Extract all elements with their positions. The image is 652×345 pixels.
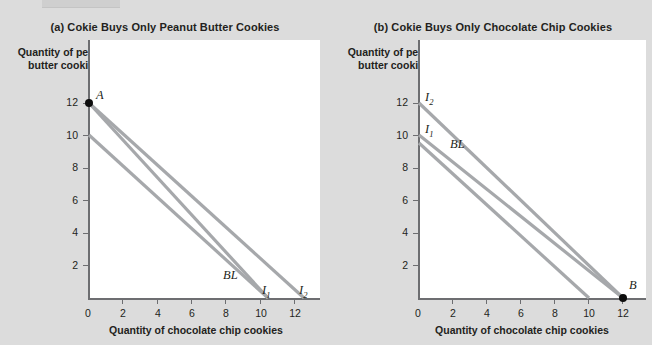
- panel-a-line-bl: [89, 103, 268, 298]
- panel-a-label-i2-sub: 2: [303, 290, 307, 300]
- panel-b-label-bl: BL: [450, 137, 465, 152]
- panel-b-point-b-dot: [619, 294, 627, 302]
- panel-b-line-i2: [419, 103, 623, 298]
- panel-a-label-i1: I1: [262, 283, 270, 300]
- panel-a-label-i2: I2: [299, 283, 307, 300]
- panel-b-label-i1: I1: [425, 122, 433, 139]
- panel-b-label-i2: I2: [425, 90, 433, 107]
- panel-b-line-i1: [419, 135, 623, 298]
- panel-b-label-i1-sub: 1: [429, 129, 433, 139]
- panel-a-label-i1-sub: 1: [266, 290, 270, 300]
- chart-panel-a: (a) Cokie Buys Only Peanut Butter Cookie…: [0, 0, 326, 345]
- panel-a-line-i2: [89, 103, 304, 298]
- panel-a-line-i1: [89, 135, 268, 298]
- panel-a-x-axis-label: Quantity of chocolate chip cookies: [66, 324, 326, 336]
- panel-b-line-bl: [419, 143, 589, 298]
- panel-b-curves: [326, 0, 652, 345]
- panel-b-label-i2-sub: 2: [429, 97, 433, 107]
- panel-a-point-a-dot: [85, 99, 93, 107]
- panel-a-label-bl: BL: [223, 268, 238, 283]
- panel-b-x-axis-label: Quantity of chocolate chip cookies: [392, 324, 652, 336]
- panel-a-curves: [0, 0, 326, 345]
- panel-b-point-b-label: B: [629, 278, 637, 293]
- chart-panel-b: (b) Cokie Buys Only Chocolate Chip Cooki…: [326, 0, 652, 345]
- panel-a-point-a-label: A: [96, 88, 104, 103]
